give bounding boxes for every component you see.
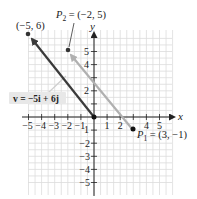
x-tick-label: 2 [118,120,123,131]
x-tick-label: −4 [35,120,46,131]
p1-label-rest: = (3, −1) [147,129,187,141]
y-tick-label: 1 [84,124,89,135]
y-tick-label: −2 [79,138,90,149]
vector-label-text: v = −5i + 6j [13,94,59,104]
p2-label-rest: = (−2, 5) [66,9,106,21]
y-axis-label: y [89,20,95,32]
vector-diagram: x y −5−4−3−2−11245542−2−3−4−51 (−5, 6) P… [0,0,197,199]
point-origin [92,115,97,120]
point-p1 [131,127,136,132]
x-tick-label: −3 [48,120,59,131]
point-neg5-6 [26,32,31,37]
x-tick-label: −2 [61,120,72,131]
x-tick-label: −5 [22,120,33,131]
y-tick-label: −3 [79,151,90,162]
y-tick-label: −4 [79,164,90,175]
vector-label-box: v = −5i + 6j [9,92,66,104]
point-neg5-6-label: (−5, 6) [16,20,45,32]
grid [28,30,173,195]
p2-label: P2 = (−2, 5) [55,9,107,23]
point-p2 [66,48,71,53]
y-tick-label: 5 [84,46,89,57]
x-tick-label: 1 [105,120,110,131]
p2-label-leader [69,23,74,47]
y-tick-label: 2 [84,85,89,96]
vector-p1-to-p2 [71,55,133,130]
p1-label: P1 = (3, −1) [136,129,188,143]
y-tick-label: 4 [84,59,89,70]
y-tick-label: −5 [79,177,90,188]
x-axis-label: x [177,110,183,122]
